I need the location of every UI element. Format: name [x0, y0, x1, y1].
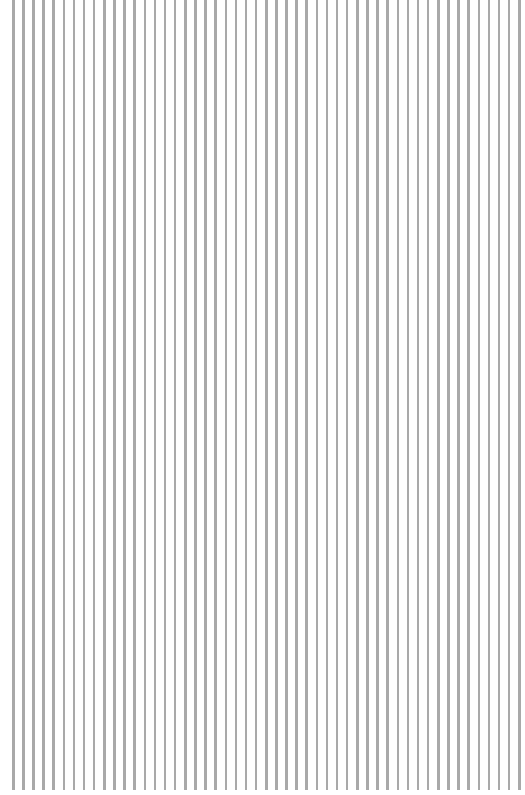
stripe-line: [295, 0, 298, 790]
stripe-line: [73, 0, 76, 790]
stripe-line: [407, 0, 410, 790]
stripe-line: [366, 0, 369, 790]
stripe-line: [194, 0, 197, 790]
stripe-line: [457, 0, 460, 790]
stripe-line: [245, 0, 248, 790]
stripe-line: [164, 0, 167, 790]
stripe-line: [376, 0, 379, 790]
stripe-line: [275, 0, 278, 790]
stripe-line: [427, 0, 430, 790]
stripe-line: [285, 0, 288, 790]
stripe-line: [123, 0, 126, 790]
stripe-line: [113, 0, 116, 790]
stripe-line: [32, 0, 35, 790]
stripe-line: [255, 0, 258, 790]
stripe-line: [265, 0, 268, 790]
stripe-line: [417, 0, 420, 790]
stripe-line: [204, 0, 207, 790]
stripe-line: [22, 0, 25, 790]
stripe-line: [447, 0, 450, 790]
stripe-line: [83, 0, 86, 790]
stripe-line: [386, 0, 389, 790]
stripe-line: [93, 0, 96, 790]
stripe-line: [488, 0, 491, 790]
stripe-line: [12, 0, 15, 790]
stripe-line: [133, 0, 136, 790]
stripe-line: [478, 0, 481, 790]
stripe-line: [326, 0, 329, 790]
stripe-line: [356, 0, 359, 790]
stripe-line: [508, 0, 511, 790]
stripe-line: [214, 0, 217, 790]
stripe-line: [346, 0, 349, 790]
stripe-line: [397, 0, 400, 790]
stripe-line: [518, 0, 521, 790]
stripe-line: [437, 0, 440, 790]
stripe-line: [52, 0, 55, 790]
stripe-line: [144, 0, 147, 790]
stripe-line: [184, 0, 187, 790]
stripe-line: [42, 0, 45, 790]
stripe-line: [336, 0, 339, 790]
stripe-line: [154, 0, 157, 790]
stripe-line: [498, 0, 501, 790]
stripe-line: [305, 0, 308, 790]
stripe-line: [316, 0, 319, 790]
stripe-line: [235, 0, 238, 790]
stripe-line: [103, 0, 106, 790]
stripe-line: [63, 0, 66, 790]
vertical-stripe-pattern: [0, 0, 525, 790]
stripe-line: [225, 0, 228, 790]
stripe-line: [467, 0, 470, 790]
stripe-line: [174, 0, 177, 790]
